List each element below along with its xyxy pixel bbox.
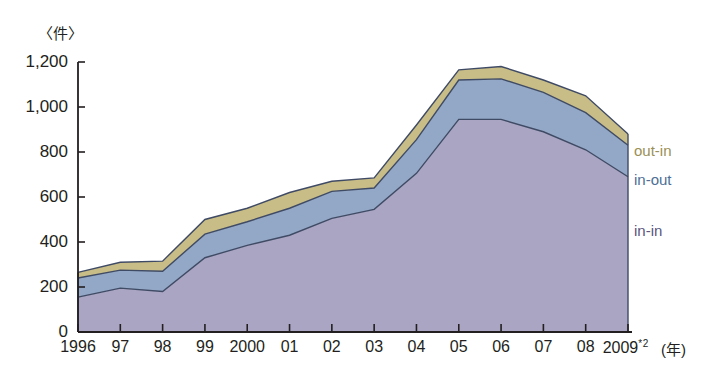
x-tick-label: 1996 — [60, 338, 96, 356]
stacked-area-chart: 〈件〉 1,2001,0008006004002000 199697989920… — [0, 0, 704, 389]
chart-plot-area — [0, 0, 704, 389]
x-tick-label: 07 — [534, 338, 552, 356]
x-tick-label: 2000 — [229, 338, 265, 356]
x-tick-label: 02 — [323, 338, 341, 356]
x-tick-label: 04 — [408, 338, 426, 356]
series-label-in-in: in-in — [634, 222, 662, 239]
x-tick-label: 06 — [492, 338, 510, 356]
x-tick-label: 08 — [577, 338, 595, 356]
x-tick-label: 2009*2 — [603, 338, 649, 357]
x-tick-label: 97 — [111, 338, 129, 356]
area-series-in-in — [78, 119, 628, 332]
x-tick-footnote-marker: *2 — [638, 338, 648, 349]
x-tick-label: 03 — [365, 338, 383, 356]
x-axis-title: (年) — [661, 338, 686, 359]
series-label-out-in: out-in — [634, 142, 672, 159]
x-tick-label: 98 — [154, 338, 172, 356]
series-label-in-out: in-out — [634, 171, 672, 188]
x-tick-label: 01 — [281, 338, 299, 356]
x-tick-label: 99 — [196, 338, 214, 356]
x-tick-label: 05 — [450, 338, 468, 356]
